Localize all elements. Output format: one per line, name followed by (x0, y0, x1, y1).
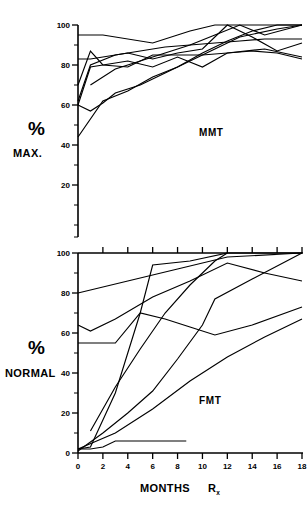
y-tick-label: 0 (66, 449, 71, 458)
bottom-y-tick-group (72, 253, 78, 453)
x-axis-title-months: MONTHS (140, 482, 190, 494)
top-y-tick-group (72, 25, 78, 237)
figure-container: 20406080100 MMT % MAX. 020406080100 0246… (0, 0, 308, 523)
bottom-y-tick-label-group: 020406080100 (57, 249, 71, 458)
series-line-patient-6 (78, 253, 302, 451)
bottom-y-axis-title: % NORMAL (5, 337, 56, 379)
y-tick-label: 100 (57, 21, 71, 30)
y-tick-label: 100 (57, 249, 71, 258)
x-tick-label: 10 (198, 462, 207, 471)
x-axis-title-group: MONTHS Rx (140, 482, 220, 496)
y-axis-title-max: MAX. (13, 147, 42, 159)
x-tick-label: 2 (101, 462, 106, 471)
percent-glyph-top: % (28, 118, 45, 139)
top-y-axis-title: % MAX. (13, 118, 45, 159)
top-panel: 20406080100 MMT (57, 21, 302, 237)
x-tick-label: 18 (298, 462, 307, 471)
panel-label-mmt: MMT (199, 127, 224, 138)
y-tick-label: 20 (61, 409, 70, 418)
y-tick-label: 80 (61, 61, 70, 70)
y-tick-label: 80 (61, 289, 70, 298)
bottom-x-tick-group (78, 453, 302, 459)
x-tick-label: 14 (248, 462, 257, 471)
percent-glyph-bottom: % (28, 337, 45, 358)
y-axis-title-normal: NORMAL (5, 367, 56, 379)
bottom-series-group (78, 253, 302, 451)
x-axis-title-rx: Rx (208, 482, 220, 496)
top-boundary-x-tick-group (103, 247, 302, 253)
series-line-patient-4 (78, 253, 302, 449)
x-tick-label: 8 (175, 462, 180, 471)
x-tick-label: 6 (150, 462, 155, 471)
bottom-x-tick-label-group: 024681012141618 (76, 462, 307, 471)
x-tick-label: 16 (273, 462, 282, 471)
y-tick-label: 60 (61, 101, 70, 110)
panel-label-fmt: FMT (199, 395, 221, 406)
y-tick-label: 40 (61, 369, 70, 378)
series-line-patient-3 (78, 307, 302, 343)
y-tick-label: 60 (61, 329, 70, 338)
x-tick-label: 12 (223, 462, 232, 471)
y-tick-label: 20 (61, 181, 70, 190)
series-line-patient-7 (78, 319, 302, 449)
y-tick-label: 40 (61, 141, 70, 150)
series-line-patient-1 (78, 253, 302, 293)
x-tick-label: 4 (126, 462, 131, 471)
top-y-tick-label-group: 20406080100 (57, 21, 71, 190)
series-line-patient-6 (78, 25, 302, 137)
top-series-group (78, 25, 302, 137)
series-line-patient-2 (78, 263, 302, 331)
bottom-panel: 020406080100 024681012141618 FMT (57, 247, 307, 471)
two-panel-line-chart: 20406080100 MMT % MAX. 020406080100 0246… (0, 0, 308, 523)
x-tick-label: 0 (76, 462, 81, 471)
